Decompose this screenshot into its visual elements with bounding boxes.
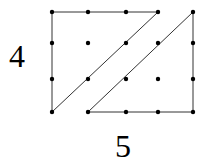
grid-dot	[191, 110, 195, 114]
grid-dot	[86, 110, 90, 114]
grid-dot	[191, 77, 195, 81]
grid-dot	[86, 41, 90, 45]
grid-dot	[191, 10, 195, 14]
grid-dot	[156, 41, 160, 45]
grid-dot	[86, 77, 90, 81]
grid-dot	[50, 41, 54, 45]
grid-dot	[50, 110, 54, 114]
triangles-figure	[0, 0, 210, 164]
height-label: 4	[9, 40, 25, 72]
grid-dot	[156, 110, 160, 114]
grid-dot	[156, 10, 160, 14]
grid-dot	[50, 77, 54, 81]
grid-dot	[191, 41, 195, 45]
grid-dot	[50, 10, 54, 14]
grid-dot	[124, 110, 128, 114]
grid-dot	[86, 10, 90, 14]
grid-dot	[124, 41, 128, 45]
width-label: 5	[115, 130, 131, 162]
right-triangle	[88, 12, 193, 112]
left-triangle	[52, 12, 158, 112]
grid-dot	[124, 10, 128, 14]
grid-dot	[156, 77, 160, 81]
grid-dot	[124, 77, 128, 81]
